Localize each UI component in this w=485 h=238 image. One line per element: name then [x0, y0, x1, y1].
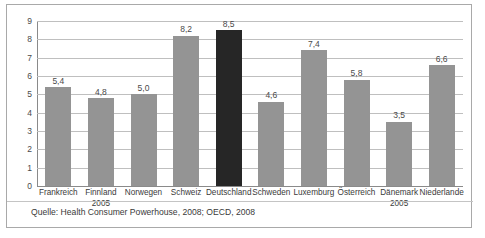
y-tick-label-4: 4 — [27, 108, 32, 117]
bar-value-label: 5,4 — [52, 77, 64, 86]
category-label-text: Finnland — [85, 188, 116, 197]
bar-value-label: 7,4 — [308, 40, 320, 49]
bar-group[interactable]: 6,6 — [429, 21, 455, 186]
bar-group[interactable]: 4,6 — [258, 21, 284, 186]
bar-value-label: 5,0 — [138, 84, 150, 93]
bar-value-label: 4,8 — [95, 88, 107, 97]
bar[interactable] — [88, 98, 114, 186]
category-label: Niederlande — [413, 188, 471, 199]
bar[interactable] — [429, 65, 455, 186]
y-tick-label-7: 7 — [27, 53, 32, 62]
bar-value-label: 8,5 — [223, 20, 235, 29]
bar-chart: 01234567895,44,85,08,28,54,67,45,83,56,6… — [7, 5, 473, 195]
y-tick-label-3: 3 — [27, 127, 32, 136]
bar-value-label: 6,6 — [436, 55, 448, 64]
y-tick-label-2: 2 — [27, 145, 32, 154]
figure-frame: 01234567895,44,85,08,28,54,67,45,83,56,6… — [6, 4, 472, 228]
gridline-0 — [37, 186, 463, 187]
bar-group[interactable]: 7,4 — [301, 21, 327, 186]
bar-group[interactable]: 5,8 — [344, 21, 370, 186]
category-label-text: Niederlande — [420, 188, 464, 197]
bar[interactable] — [386, 122, 412, 186]
bar[interactable] — [131, 94, 157, 186]
bar-group[interactable]: 8,2 — [173, 21, 199, 186]
bar[interactable] — [216, 30, 242, 186]
bar-group[interactable]: 8,5 — [216, 21, 242, 186]
category-label-text: Schweiz — [171, 188, 202, 197]
y-tick-label-6: 6 — [27, 72, 32, 81]
y-tick-label-8: 8 — [27, 35, 32, 44]
bar-value-label: 5,8 — [351, 69, 363, 78]
source-separator — [7, 201, 473, 202]
bar[interactable] — [45, 87, 71, 186]
bar[interactable] — [301, 50, 327, 186]
bar-value-label: 3,5 — [393, 111, 405, 120]
bar-group[interactable]: 3,5 — [386, 21, 412, 186]
y-tick-label-5: 5 — [27, 90, 32, 99]
y-tick-label-9: 9 — [27, 17, 32, 26]
bar[interactable] — [344, 80, 370, 186]
plot-area: 01234567895,44,85,08,28,54,67,45,83,56,6 — [37, 21, 463, 186]
bar[interactable] — [173, 36, 199, 186]
bar-group[interactable]: 4,8 — [88, 21, 114, 186]
y-tick-label-1: 1 — [27, 163, 32, 172]
bar-value-label: 8,2 — [180, 25, 192, 34]
bar-group[interactable]: 5,0 — [131, 21, 157, 186]
bar[interactable] — [258, 102, 284, 186]
source-note: Quelle: Health Consumer Powerhouse, 2008… — [31, 207, 255, 218]
bar-value-label: 4,6 — [265, 91, 277, 100]
bar-group[interactable]: 5,4 — [45, 21, 71, 186]
